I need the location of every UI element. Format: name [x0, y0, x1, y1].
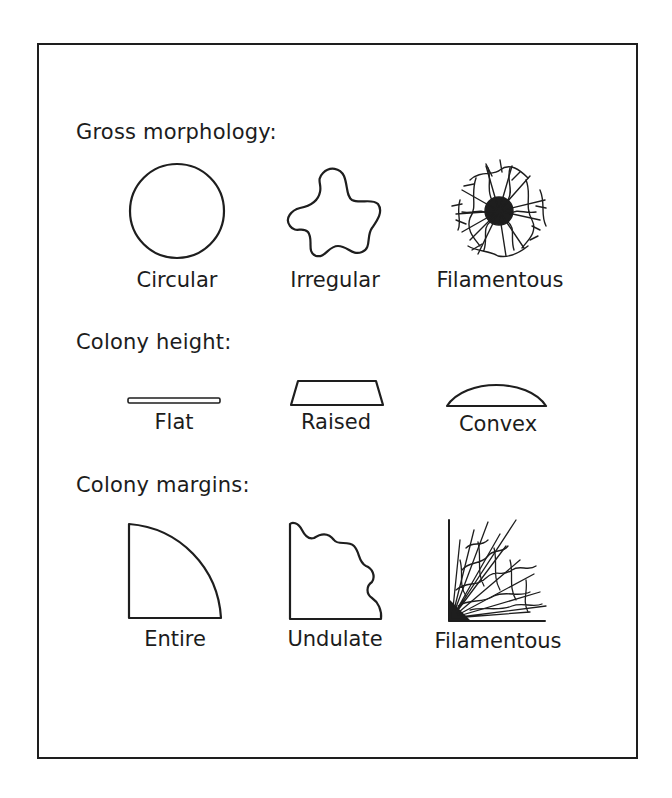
filamentous-tangle-icon: [452, 160, 546, 257]
wavy-quarter-icon: [290, 523, 381, 619]
label-entire: Entire: [95, 627, 255, 651]
circle-outline-icon: [130, 164, 224, 258]
label-irregular: Irregular: [255, 268, 415, 292]
section-heading-gross-morphology: Gross morphology:: [76, 120, 277, 144]
trapezoid-icon: [291, 381, 383, 405]
dome-icon: [447, 385, 546, 406]
irregular-blob-icon: [288, 169, 380, 257]
label-raised: Raised: [256, 410, 416, 434]
label-filamentous-margin: Filamentous: [418, 629, 578, 653]
label-filamentous-morphology: Filamentous: [420, 268, 580, 292]
flat-bar-icon: [128, 398, 220, 403]
label-undulate: Undulate: [255, 627, 415, 651]
section-heading-colony-margins: Colony margins:: [76, 473, 250, 497]
quarter-circle-icon: [129, 524, 221, 618]
filamentous-corner-icon: [449, 520, 546, 621]
section-heading-colony-height: Colony height:: [76, 330, 231, 354]
label-circular: Circular: [97, 268, 257, 292]
label-flat: Flat: [94, 410, 254, 434]
label-convex: Convex: [418, 412, 578, 436]
